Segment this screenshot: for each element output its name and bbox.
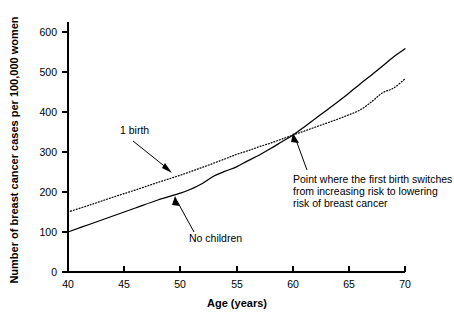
y-tick-label-500: 500 (39, 66, 57, 78)
x-tick-label-55: 55 (231, 278, 243, 290)
annotation-crossover-line-3: risk of breast cancer (293, 197, 388, 209)
breast-cancer-risk-chart: 600 500 400 300 200 100 0 Number of brea… (0, 0, 454, 316)
y-tick-label-200: 200 (39, 186, 57, 198)
annotation-arrow-1-birth (162, 163, 172, 173)
annotation-one-birth: 1 birth (120, 124, 172, 173)
x-tick-label-65: 65 (343, 278, 355, 290)
x-tick-label-70: 70 (399, 278, 411, 290)
y-tick-label-100: 100 (39, 226, 57, 238)
x-tick-label-45: 45 (118, 278, 130, 290)
annotation-crossover-line-2: from increasing risk to lowering (293, 185, 438, 197)
x-tick-label-60: 60 (287, 278, 299, 290)
chart-plot-area: 600 500 400 300 200 100 0 Number of brea… (0, 0, 454, 316)
y-axis-title: Number of breast cancer cases per 100,00… (8, 16, 20, 283)
annotation-crossover: Point where the first birth switches fro… (291, 133, 452, 209)
x-tick-label-50: 50 (174, 278, 186, 290)
x-axis-ticks (68, 266, 405, 272)
y-tick-label-0: 0 (51, 266, 57, 278)
x-axis-title: Age (years) (207, 297, 267, 309)
x-axis-tick-labels: 40 45 50 55 60 65 70 (62, 278, 411, 290)
y-axis-ticks (62, 32, 68, 272)
annotation-label-no-children: No children (189, 232, 242, 244)
x-axis: 40 45 50 55 60 65 70 Age (years) (62, 266, 411, 309)
y-axis-tick-labels: 600 500 400 300 200 100 0 (39, 26, 57, 278)
annotation-no-children: No children (172, 196, 242, 244)
y-tick-label-400: 400 (39, 106, 57, 118)
annotation-arrow-crossover (291, 133, 299, 143)
annotation-arrow-no-children (172, 196, 180, 206)
x-tick-label-40: 40 (62, 278, 74, 290)
annotation-leader-crossover (296, 140, 307, 170)
y-axis: 600 500 400 300 200 100 0 Number of brea… (8, 16, 68, 283)
annotation-label-1-birth: 1 birth (120, 124, 149, 136)
annotation-crossover-line-1: Point where the first birth switches (293, 173, 452, 185)
y-tick-label-600: 600 (39, 26, 57, 38)
y-tick-label-300: 300 (39, 146, 57, 158)
annotation-leader-1-birth (133, 141, 168, 169)
